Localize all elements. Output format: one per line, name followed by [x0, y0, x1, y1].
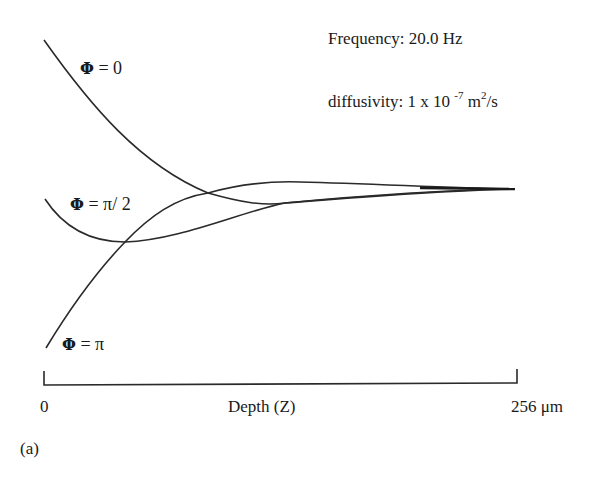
diffusivity-prefix: diffusivity: 1 x 10 — [328, 92, 450, 111]
label-phi-0-value: = 0 — [94, 58, 122, 78]
panel-label: (a) — [20, 440, 39, 457]
diffusivity-unit: m — [463, 92, 480, 111]
phi-symbol: Φ — [80, 59, 94, 78]
depth-axis-bracket — [44, 369, 517, 385]
phi-symbol: Φ — [70, 195, 84, 214]
axis-start-label: 0 — [40, 398, 49, 415]
frequency-annotation: Frequency: 20.0 Hz — [328, 30, 463, 47]
curve-convergence — [420, 188, 515, 189]
axis-end-label: 256 μm — [511, 398, 563, 415]
diffusivity-annotation: diffusivity: 1 x 10 -7 m2/s — [328, 90, 498, 110]
diffusivity-unit-tail: /s — [486, 92, 497, 111]
phi-symbol: Φ — [62, 335, 76, 354]
label-phi-0: Φ = 0 — [80, 59, 122, 77]
label-phi-half-pi-value: = π/ 2 — [84, 194, 131, 214]
label-phi-pi-value: = π — [76, 334, 104, 354]
label-phi-pi: Φ = π — [62, 335, 104, 353]
axis-title: Depth (Z) — [228, 398, 296, 415]
label-phi-half-pi: Φ = π/ 2 — [70, 195, 131, 213]
